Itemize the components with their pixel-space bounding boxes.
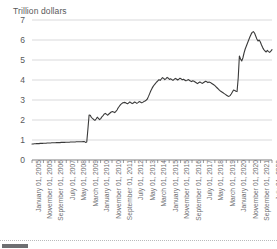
x-axis-tick-label: July 01, 2022 <box>275 160 277 200</box>
x-axis-tick-label: January 01, 2010 <box>103 160 110 212</box>
x-axis-tick-label: January 01, 2020 <box>240 160 247 212</box>
x-axis-tick-label: March 01, 2014 <box>160 160 167 207</box>
y-axis-tick-label: 4 <box>20 75 25 85</box>
x-axis-tick-label: November 01, 2010 <box>115 160 122 219</box>
x-axis-tick-label: May 01, 2018 <box>217 160 224 201</box>
y-axis-tick-label: 1 <box>20 135 25 145</box>
x-axis-tick-label: September 01, 2011 <box>126 160 133 220</box>
x-axis-tick-label: May 01, 2013 <box>149 160 156 201</box>
x-axis-tick-label: July 01, 2012 <box>137 160 144 200</box>
x-axis-tick-label: November 01, 2020 <box>252 160 259 219</box>
corner-marker <box>2 244 28 248</box>
data-line-total-assets <box>32 32 272 144</box>
y-axis-tick-label: 2 <box>20 115 25 125</box>
x-axis-tick-label: November 01, 2005 <box>46 160 53 219</box>
x-axis-tick-label: September 01, 2016 <box>195 160 202 221</box>
y-axis-tick-label: 6 <box>20 35 25 45</box>
y-axis-tick-label: 5 <box>20 55 25 65</box>
y-axis-tick-label: 3 <box>20 95 25 105</box>
footer-divider <box>0 240 277 242</box>
x-axis-tick-labels: January 01, 2005November 01, 2005Septemb… <box>0 160 277 240</box>
x-axis-tick-label: November 01, 2015 <box>183 160 190 219</box>
x-axis-tick-label: May 01, 2008 <box>80 160 87 201</box>
x-axis-tick-label: March 01, 2019 <box>229 160 236 207</box>
x-axis-tick-label: September 01, 2021 <box>263 160 270 221</box>
x-axis-tick-label: July 01, 2017 <box>206 160 213 200</box>
x-axis-tick-label: January 01, 2015 <box>172 160 179 212</box>
x-axis-tick-label: January 01, 2005 <box>35 160 42 212</box>
x-axis-tick-label: September 01, 2006 <box>57 160 64 221</box>
y-axis-tick-label: 7 <box>20 15 25 25</box>
x-axis-tick-label: July 01, 2007 <box>69 160 76 200</box>
x-axis-tick-label: March 01, 2009 <box>92 160 99 207</box>
chart-container: Trillion dollars 01234567 January 01, 20… <box>0 0 277 249</box>
